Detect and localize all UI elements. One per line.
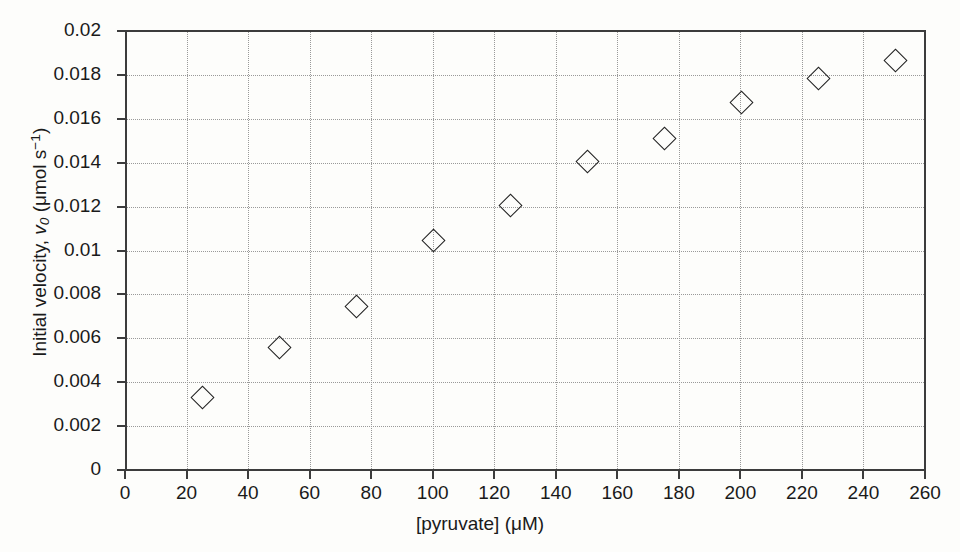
x-axis-tick: [555, 470, 557, 479]
gridline-horizontal: [126, 382, 924, 383]
x-axis-tick: [801, 470, 803, 479]
y-axis-tick: [117, 118, 126, 120]
x-axis-tick-label: 120: [478, 482, 510, 504]
x-axis-tick-label: 40: [237, 482, 258, 504]
x-axis-tick-label: 160: [601, 482, 633, 504]
x-axis-tick: [124, 470, 126, 479]
y-axis-tick-label-text: 0.02: [64, 19, 101, 41]
y-axis-tick: [117, 381, 126, 383]
x-axis-tick: [678, 470, 680, 479]
gridline-vertical: [556, 32, 557, 469]
x-axis-label: [pyruvate] (μM): [0, 513, 960, 535]
y-axis-tick-label-text: 0.018: [53, 63, 101, 85]
x-axis-tick: [493, 470, 495, 479]
y-axis-tick: [117, 293, 126, 295]
y-axis-tick-label-text: 0.008: [53, 282, 101, 304]
y-axis-label: Initial velocity, v0 (μmol s−1): [28, 22, 53, 462]
x-axis-tick-label: 200: [725, 482, 757, 504]
x-axis-tick: [924, 470, 926, 479]
x-axis-tick-label: 60: [299, 482, 320, 504]
x-axis-tick: [370, 470, 372, 479]
gridline-horizontal: [126, 338, 924, 339]
x-axis-tick: [432, 470, 434, 479]
gridline-horizontal: [126, 119, 924, 120]
y-axis-tick-label-text: 0.004: [53, 370, 101, 392]
x-axis-tick-label: 260: [909, 482, 941, 504]
x-axis-tick-label: 0: [120, 482, 131, 504]
x-axis-tick-label: 20: [176, 482, 197, 504]
gridline-vertical: [494, 32, 495, 469]
x-axis-tick: [739, 470, 741, 479]
y-axis-tick-label-text: 0.012: [53, 195, 101, 217]
x-axis-tick-label: 220: [786, 482, 818, 504]
y-axis-tick: [117, 425, 126, 427]
y-axis-tick: [117, 162, 126, 164]
gridline-horizontal: [126, 294, 924, 295]
x-axis-tick-label: 180: [663, 482, 695, 504]
x-axis-tick: [309, 470, 311, 479]
y-axis-tick: [117, 206, 126, 208]
gridline-horizontal: [126, 426, 924, 427]
enzyme-kinetics-scatter-chart: 00.0020.0040.0060.0080.010.0120.0140.016…: [0, 0, 960, 552]
gridline-horizontal: [126, 75, 924, 76]
gridline-vertical: [679, 32, 680, 469]
gridline-horizontal: [126, 251, 924, 252]
y-axis-tick: [117, 30, 126, 32]
y-axis-tick-label-text: 0.006: [53, 326, 101, 348]
x-axis-tick: [247, 470, 249, 479]
y-axis-tick-label-text: 0.014: [53, 151, 101, 173]
gridline-vertical: [863, 32, 864, 469]
gridline-vertical: [187, 32, 188, 469]
plot-frame-right-spine: [924, 31, 926, 471]
x-axis-tick-label: 80: [361, 482, 382, 504]
y-axis-tick: [117, 337, 126, 339]
y-axis-label-symbol: v: [29, 225, 50, 235]
y-axis-tick-label-text: 0.016: [53, 107, 101, 129]
gridline-vertical: [371, 32, 372, 469]
x-axis-tick: [186, 470, 188, 479]
x-axis-tick-label: 240: [848, 482, 880, 504]
gridline-vertical: [617, 32, 618, 469]
x-axis-tick-label: 100: [417, 482, 449, 504]
y-axis-label-subscript: 0: [37, 218, 52, 226]
x-axis-tick-label: 140: [540, 482, 572, 504]
x-axis-tick: [862, 470, 864, 479]
y-axis-label-prefix: Initial velocity,: [29, 235, 50, 357]
y-axis-label-superscript: −1: [28, 134, 43, 150]
y-axis-label-units-close: ): [29, 128, 50, 134]
y-axis-tick: [117, 250, 126, 252]
gridline-vertical: [802, 32, 803, 469]
y-axis-tick-label-text: 0.002: [53, 414, 101, 436]
plot-frame-top-spine: [125, 30, 926, 32]
gridline-vertical: [248, 32, 249, 469]
y-axis-tick-label-text: 0.01: [64, 239, 101, 261]
y-axis-tick: [117, 74, 126, 76]
gridline-horizontal: [126, 163, 924, 164]
gridline-vertical: [310, 32, 311, 469]
y-axis-tick-label-text: 0: [90, 458, 101, 480]
y-axis-label-units-open: (μmol s: [29, 150, 50, 218]
gridline-horizontal: [126, 207, 924, 208]
x-axis-line: [125, 469, 926, 471]
x-axis-tick: [616, 470, 618, 479]
